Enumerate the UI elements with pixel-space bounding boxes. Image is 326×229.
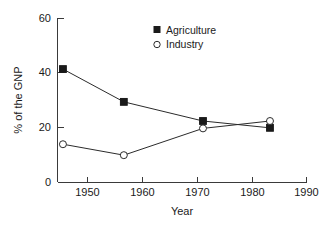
chart-container: 0 20 40 60 % of the GNP 1950 1960 1970 1…: [0, 0, 326, 229]
data-point-industry-1950: [59, 141, 66, 148]
legend-label-agriculture: Agriculture: [166, 24, 216, 36]
data-point-agriculture-1950: [60, 66, 67, 73]
x-axis-ticks: [88, 177, 307, 183]
data-point-agriculture-1973: [200, 118, 207, 125]
x-tick-label-1980: 1980: [240, 186, 264, 198]
data-point-industry-1973: [199, 125, 206, 132]
data-point-agriculture-1960: [120, 98, 127, 105]
y-tick-label-0: 0: [45, 176, 51, 188]
x-tick-label-1960: 1960: [130, 186, 154, 198]
x-tick-label-1990: 1990: [294, 186, 318, 198]
series-line-agriculture: [63, 69, 270, 128]
line-chart: 0 20 40 60 % of the GNP 1950 1960 1970 1…: [0, 0, 326, 229]
chart-legend: Agriculture Industry: [154, 24, 217, 51]
y-axis-tick-labels: 0 20 40 60: [39, 12, 51, 188]
series-line-industry: [63, 121, 270, 155]
data-point-industry-1984: [266, 118, 273, 125]
legend-marker-industry: [154, 41, 160, 47]
y-axis-title: % of the GNP: [12, 66, 24, 133]
data-point-agriculture-1984: [267, 124, 274, 131]
y-axis-ticks: [58, 19, 64, 183]
y-tick-label-40: 40: [39, 66, 51, 78]
legend-label-industry: Industry: [166, 38, 204, 50]
y-tick-label-60: 60: [39, 12, 51, 24]
x-axis-tick-labels: 1950 1960 1970 1980 1990: [75, 186, 318, 198]
legend-marker-agriculture: [154, 27, 160, 33]
y-tick-label-20: 20: [39, 121, 51, 133]
data-point-industry-1960: [120, 152, 127, 159]
x-tick-label-1970: 1970: [185, 186, 209, 198]
x-tick-label-1950: 1950: [75, 186, 99, 198]
series-layer: [59, 66, 273, 159]
x-axis-title: Year: [171, 205, 194, 217]
